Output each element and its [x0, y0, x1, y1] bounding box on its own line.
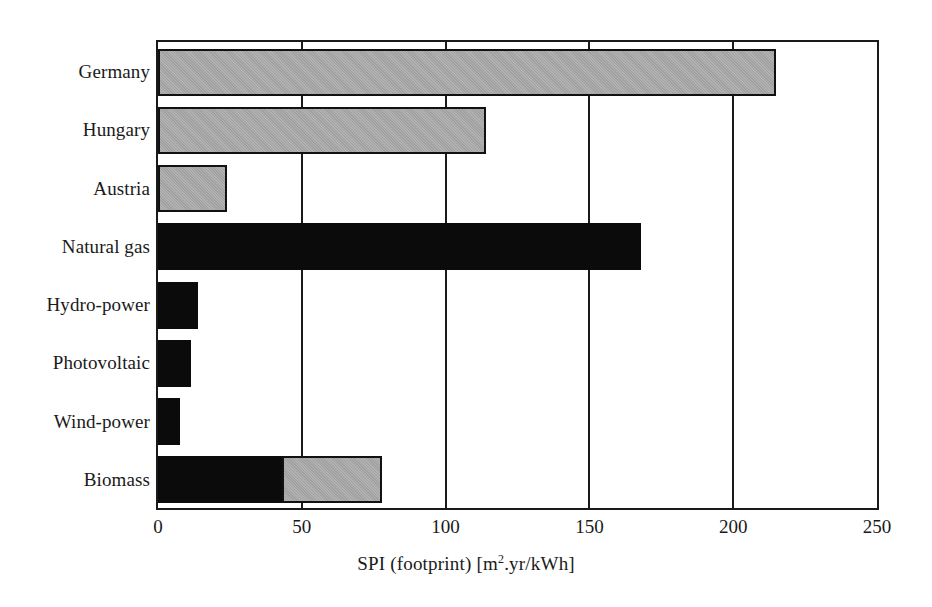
x-axis-title: SPI (footprint) [m2.yr/kWh] [0, 553, 932, 575]
x-axis-tick-labels: 050100150200250 [156, 516, 879, 542]
bar-chart: GermanyHungaryAustriaNatural gasHydro-po… [0, 0, 932, 607]
gridline [732, 42, 734, 508]
bar-segment-grey [282, 456, 383, 503]
bar [158, 223, 641, 270]
bar [158, 107, 486, 154]
category-label-wind-power: Wind-power [0, 412, 150, 432]
x-tick-label: 0 [153, 516, 163, 538]
bar [158, 398, 180, 445]
category-label-biomass: Biomass [0, 470, 150, 490]
x-axis-title-main: SPI (footprint) [m [357, 553, 498, 574]
bar [158, 49, 776, 96]
x-tick-label: 250 [863, 516, 892, 538]
x-axis-title-tail: .yr/kWh] [504, 553, 575, 574]
category-label-hydro-power: Hydro-power [0, 295, 150, 315]
category-axis-labels: GermanyHungaryAustriaNatural gasHydro-po… [0, 40, 150, 510]
x-tick-label: 100 [431, 516, 460, 538]
bar [158, 340, 191, 387]
plot-area [156, 40, 879, 510]
x-tick-label: 200 [719, 516, 748, 538]
category-label-natural-gas: Natural gas [0, 237, 150, 257]
category-label-germany: Germany [0, 62, 150, 82]
x-tick-label: 150 [575, 516, 604, 538]
gridline [588, 42, 590, 508]
category-label-austria: Austria [0, 179, 150, 199]
bar-segment-dark [158, 456, 282, 503]
category-label-hungary: Hungary [0, 120, 150, 140]
x-tick-label: 50 [292, 516, 311, 538]
bar [158, 282, 198, 329]
bar [158, 165, 227, 212]
category-label-photovoltaic: Photovoltaic [0, 353, 150, 373]
